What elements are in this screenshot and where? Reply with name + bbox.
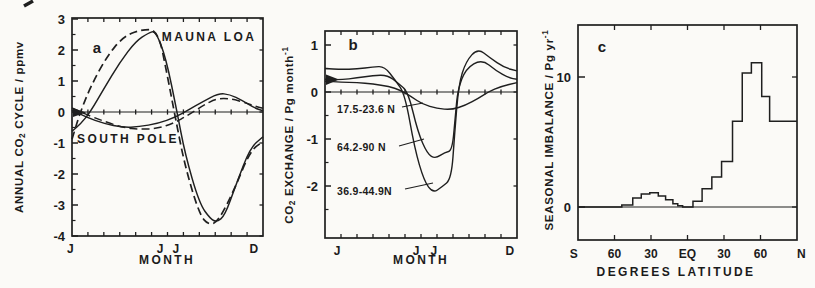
x-axis-label-a: MONTH (139, 253, 195, 267)
y-tick-label: 3 (58, 12, 65, 27)
y-axis-label-b: CO2 EXCHANGE / Pg month-1 (281, 46, 296, 224)
seasonal-imbalance-step-curve (578, 63, 797, 207)
x-tick-label: S (570, 247, 578, 261)
y-tick-label: 0 (311, 85, 318, 100)
x-tick-label: J (334, 244, 341, 258)
y-axis-label-c-sup: -1 (541, 29, 550, 38)
x-tick-label: J (430, 244, 437, 258)
y-axis-label-b-text: CO (283, 205, 295, 224)
y-tick-label: 2 (58, 43, 65, 58)
x-tick-label: D (505, 244, 514, 258)
south-pole-label: SOUTH POLE (77, 132, 179, 146)
y-axis-label-a-text2: CYCLE / ppmv (13, 41, 25, 133)
y-axis-label-a: ANNUAL CO2 CYCLE / ppmv (13, 41, 27, 213)
band-label-17-23: 17.5-23.6 N (337, 103, 395, 115)
y-axis-label-c: SEASONAL IMBALANCE / Pg yr-1 (541, 29, 554, 230)
curve-mauna-loa-solid (72, 32, 263, 221)
y-tick-label: -1 (53, 136, 65, 151)
y-axis-label-b-sup: -1 (281, 46, 290, 55)
y-tick-label: -4 (53, 229, 65, 244)
y-tick-label: 10 (557, 70, 571, 85)
y-axis-label-c-text: SEASONAL IMBALANCE / Pg yr (543, 38, 555, 230)
y-axis-label-b-sub: 2 (288, 200, 297, 205)
x-axis-label-c: DEGREES LATITUDE (597, 265, 756, 279)
figure: a b c ANNUAL CO2 CYCLE / ppmv CO2 EXCHAN… (0, 0, 815, 288)
band-label-36-44: 36.9-44.9N (337, 185, 392, 197)
y-tick-label: -2 (306, 179, 318, 194)
y-axis-label-a-sub: 2 (18, 133, 27, 138)
band-label-leader (399, 139, 424, 146)
x-tick-label: 60 (754, 247, 767, 261)
band-label-64-90: 64.2-90 N (337, 141, 386, 153)
x-tick-label: D (250, 242, 259, 256)
x-tick-label: J (67, 242, 74, 256)
x-tick-label: 30 (644, 247, 657, 261)
x-tick-label: 60 (608, 247, 621, 261)
y-tick-label: -1 (306, 132, 318, 147)
y-axis-label-b-text2: EXCHANGE / Pg month (283, 55, 295, 200)
y-tick-label: -2 (53, 167, 65, 182)
panel-c-letter: c (598, 38, 606, 55)
x-tick-label: EQ (679, 247, 696, 261)
x-tick-label: N (797, 247, 806, 261)
y-axis-label-a-text: ANNUAL CO (13, 138, 25, 213)
y-tick-label: 0 (58, 105, 65, 120)
x-axis-label-b: MONTH (393, 253, 449, 267)
mauna-loa-label: MAUNA LOA (162, 30, 256, 44)
band-label-leader (402, 103, 423, 107)
curve-mauna-loa-dashed (72, 30, 263, 224)
x-tick-label: J (173, 242, 180, 256)
x-tick-label: 30 (717, 247, 730, 261)
scan-artifact-mark (24, 1, 33, 6)
curve-36-9-44-9n-solid (325, 51, 517, 191)
panel-b-letter: b (348, 36, 357, 53)
left-edge-crossing-blob (326, 75, 339, 86)
y-tick-label: 1 (58, 74, 65, 89)
y-tick-label: 1 (311, 38, 318, 53)
panel-a-letter: a (93, 39, 101, 56)
x-tick-label: J (413, 244, 420, 258)
y-tick-label: 0 (564, 200, 571, 215)
x-tick-label: J (157, 242, 164, 256)
axes-frame (325, 31, 517, 238)
y-tick-label: -3 (53, 198, 65, 213)
